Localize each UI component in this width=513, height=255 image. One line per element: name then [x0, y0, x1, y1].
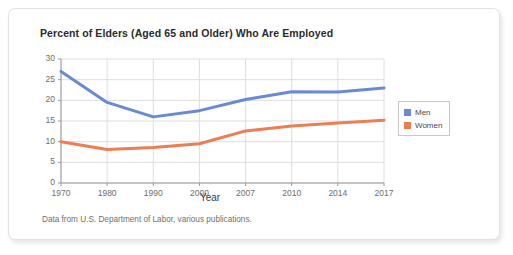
series-line-women	[61, 120, 384, 149]
series-lines	[61, 71, 384, 149]
legend-entry-men[interactable]: Men	[404, 106, 449, 119]
figure-card: Percent of Elders (Aged 65 and Older) Wh…	[8, 8, 500, 240]
legend-swatch-icon	[404, 122, 411, 129]
legend-entry-women[interactable]: Women	[404, 119, 449, 132]
legend-swatch-icon	[404, 109, 411, 116]
series-line-men	[61, 71, 384, 116]
x-axis-title: Year	[45, 192, 375, 203]
chart-legend: MenWomen	[398, 101, 450, 136]
legend-label: Women	[415, 119, 442, 132]
legend-label: Men	[415, 106, 431, 119]
gridlines	[61, 59, 384, 183]
source-note: Data from U.S. Department of Labor, vari…	[42, 215, 252, 224]
